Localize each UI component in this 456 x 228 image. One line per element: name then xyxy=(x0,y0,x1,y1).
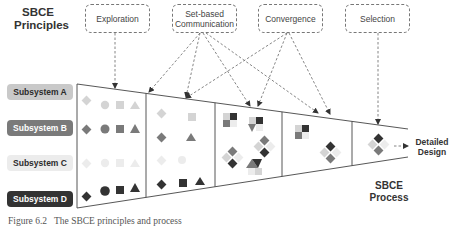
subsystem-label: Subsystem B xyxy=(13,123,67,133)
circle-icon xyxy=(101,159,109,167)
stage-3-shapes xyxy=(222,113,276,175)
square-icon xyxy=(179,179,187,187)
diamond-icon xyxy=(82,96,92,106)
square-icon xyxy=(116,125,124,133)
triangle-icon xyxy=(130,101,140,109)
square-icon xyxy=(188,113,196,121)
diamond-icon xyxy=(157,133,167,143)
circle-icon xyxy=(178,156,186,164)
subsystem-d-label: Subsystem D xyxy=(7,191,73,207)
circle-icon xyxy=(100,186,110,196)
subsystem-a-label: Subsystem A xyxy=(7,84,73,100)
triangle-icon xyxy=(130,159,140,167)
process-title-line-2: Process xyxy=(364,192,414,204)
figure-caption: Figure 6.2 The SBCE principles and proce… xyxy=(8,216,182,226)
triangle-icon xyxy=(130,124,140,133)
diamond-icon xyxy=(157,156,167,166)
triangle-icon xyxy=(186,133,196,141)
subsystem-b-label: Subsystem B xyxy=(7,120,73,136)
diamond-icon xyxy=(82,159,92,169)
triangle-icon xyxy=(130,183,140,192)
output-label-line-2: Design xyxy=(412,147,452,157)
circle-icon xyxy=(101,125,110,134)
process-title-line-1: SBCE xyxy=(364,180,414,192)
stage-5-shapes xyxy=(368,134,390,156)
subsystem-label: Subsystem A xyxy=(13,87,67,97)
stage-4-shapes xyxy=(295,125,341,163)
stage-1-shapes xyxy=(82,96,140,202)
diamond-icon xyxy=(82,192,92,202)
diamond-icon xyxy=(82,125,92,135)
triangle-icon xyxy=(195,177,205,185)
process-title: SBCE Process xyxy=(364,180,414,204)
detailed-design-label: Detailed Design xyxy=(412,137,452,157)
square-icon xyxy=(116,159,124,167)
circle-icon xyxy=(101,101,109,109)
square-icon xyxy=(116,186,124,194)
stage-2-shapes xyxy=(157,109,205,190)
diamond-icon xyxy=(157,109,167,119)
subsystem-label: Subsystem C xyxy=(13,158,67,168)
subsystem-label: Subsystem D xyxy=(13,194,67,204)
output-label-line-1: Detailed xyxy=(412,137,452,147)
subsystem-c-label: Subsystem C xyxy=(7,155,73,171)
diamond-icon xyxy=(157,180,167,190)
funnel-outline xyxy=(77,84,408,208)
square-icon xyxy=(116,101,124,109)
